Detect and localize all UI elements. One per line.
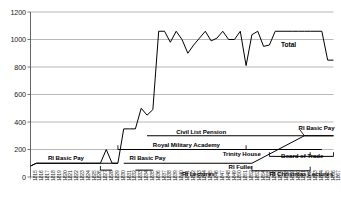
x-axis-label: 1818 [50, 170, 56, 181]
y-axis-label: 1200 [0, 8, 26, 17]
x-axis-label: 1847 [219, 170, 225, 181]
annotation-board-of-trade: Board of Trade [281, 152, 323, 159]
y-axis-label: 0 [0, 173, 26, 182]
annotation-royal-military-academy: Royal Military Academy [153, 141, 220, 148]
annotation-ri-basic-pay: RI Basic Pay [130, 154, 166, 161]
y-axis-label: 600 [0, 90, 26, 99]
y-axis-label: 200 [0, 145, 26, 154]
y-axis-label: 1000 [0, 35, 26, 44]
x-axis-label: 1853 [254, 170, 260, 181]
annotation-total: Total [281, 41, 296, 48]
x-axis-label: 1867 [335, 170, 341, 181]
y-axis-label: 800 [0, 63, 26, 72]
annotation-trinity-house: Trinity House [223, 150, 261, 157]
series-line-ri-basic-pay-early- [31, 163, 118, 166]
annotation-civil-list-pension: Civil List Pension [176, 128, 226, 135]
annotation-ri-basic-pay: RI Basic Pay [299, 124, 335, 131]
x-axis-label: 1836 [155, 170, 161, 181]
annotation-ri-fuller: RI Fuller [229, 163, 253, 170]
annotation-ri-basic-pay: RI Basic Pay [48, 154, 84, 161]
annotation-ri-lectures: RI Lectures [182, 170, 215, 177]
x-axis-label: 1830 [120, 170, 126, 181]
annotation-ri-christmas-lectures: RI Christmas Lectures [269, 170, 333, 177]
y-axis-label: 400 [0, 118, 26, 127]
x-axis-label: 1824 [85, 170, 91, 181]
x-axis-label: 1848 [225, 170, 231, 181]
x-axis-label: 1819 [56, 170, 62, 181]
